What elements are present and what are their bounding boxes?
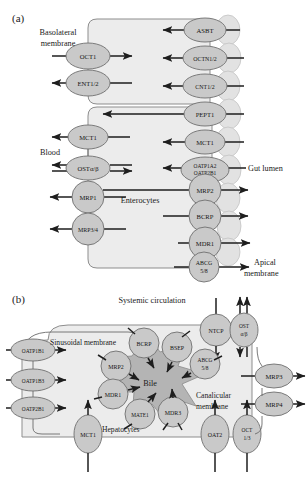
node-label: MDR1 [105, 392, 121, 398]
node-label: MRP3 [265, 373, 283, 380]
node-label: BCRP [197, 213, 214, 220]
node-label: MDR3 [165, 410, 181, 416]
node-label-line1: OATP1A2 [194, 163, 217, 169]
node-label: MRP3/4 [78, 227, 98, 233]
node-label: MRP2 [108, 364, 123, 370]
basolateral-membrane-label-line2: membrane [41, 39, 76, 48]
apical-membrane-label-line2: membrane [244, 269, 279, 278]
node-label: OATP1B1 [22, 348, 45, 354]
node-label: MRP1 [79, 194, 96, 201]
node-label-line1: OCT [242, 427, 253, 433]
node-label: ENT1/2 [77, 80, 98, 87]
node-label-line2: 5/8 [200, 268, 208, 274]
apical-membrane-label-line1: Apical [254, 258, 277, 267]
figure-root: OCT1 ENT1/2 MCT1 OSTα/β [0, 0, 307, 481]
transporter-diagram: OCT1 ENT1/2 MCT1 OSTα/β [0, 0, 307, 481]
node-label: MCT1 [79, 134, 97, 141]
node-label: OATP1B3 [22, 378, 45, 384]
hepatocytes-label: Hepatocytes [102, 425, 140, 434]
panel-b: NTCP OST α/β OATP1B1 OATP1B3 [6, 293, 305, 472]
gut-lumen-label: Gut lumen [248, 164, 283, 173]
panel-a: OCT1 ENT1/2 MCT1 OSTα/β [12, 12, 283, 282]
node-label: BCRP [136, 341, 152, 347]
enterocytes-label: Enterocytes [121, 196, 160, 205]
node-label: MATE1 [131, 412, 149, 418]
node-label: NTCP [208, 328, 224, 334]
node-label-line1: ABCG [198, 357, 213, 363]
node-label: MRP4 [265, 401, 283, 408]
node-label-line1: ABCG [196, 260, 213, 266]
basolateral-membrane-label-line1: Basolateral [40, 28, 78, 37]
blood-label: Blood [40, 148, 60, 157]
node-label: OSTα/β [77, 165, 99, 172]
node-label: BSEP [170, 345, 185, 351]
node-label: MCT1 [80, 432, 96, 438]
panel-b-label: (b) [12, 293, 25, 306]
node-label-line2: 1/3 [244, 435, 251, 441]
node-label: OATP2B1 [22, 406, 45, 412]
node-label: MDR1 [196, 240, 214, 247]
node-label-line1: OST [239, 323, 250, 329]
node-label: ASBT [197, 27, 214, 34]
node-label-line2: 5/8 [202, 365, 209, 371]
node-label: OAT2 [208, 432, 222, 438]
canalicular-membrane-label-line1: Canalicular [196, 391, 231, 400]
bile-label: Bile [143, 379, 157, 388]
node-label: MCT1 [196, 139, 214, 146]
canalicular-membrane-label-line2: membrane [196, 402, 229, 411]
node-label: MRP2 [196, 187, 213, 194]
node-label: PEPT1 [196, 111, 215, 118]
node-label-line2: α/β [240, 331, 247, 337]
sinusoidal-membrane-label: Sinusoidal membrane [50, 338, 117, 347]
panel-a-label: (a) [12, 12, 25, 25]
node-label: CNT1/2 [195, 84, 214, 90]
systemic-circulation-label: Systemic circulation [118, 296, 185, 305]
node-label: OCTN1/2 [193, 56, 217, 62]
node-label: OCT1 [80, 53, 96, 60]
